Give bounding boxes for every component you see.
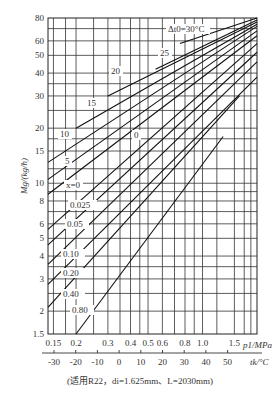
x-axis-label: p1/MPa (242, 340, 272, 350)
y-tick-label: 10 (35, 178, 45, 188)
curve-label: 0 (134, 130, 139, 140)
x-tick-label: 0.4 (125, 338, 137, 348)
curve-label: x=0 (66, 180, 81, 190)
curve-label: 20 (111, 66, 121, 76)
curve-label: 25 (160, 48, 170, 58)
y-axis-label: Mg/(kg/h) (19, 158, 29, 195)
curve-line (48, 62, 257, 264)
curve-label: 0.80 (72, 305, 88, 315)
curve-label: 0.10 (63, 249, 79, 259)
y-tick-label: 15 (35, 146, 45, 156)
temperature-axis-label: tk/°C (250, 357, 270, 367)
y-tick-label: 30 (35, 91, 45, 101)
curve-label: Δt0=30°C (168, 24, 204, 34)
curve-line (76, 24, 257, 128)
curve-label: 0.025 (70, 200, 91, 210)
x-tick-label: 0.15 (46, 338, 62, 348)
x-tick-label: 0.2 (70, 338, 81, 348)
plot-frame (48, 18, 257, 334)
curve-label: 0.05 (67, 219, 83, 229)
temperature-tick-label: -20 (70, 357, 82, 367)
temperature-tick-label: 0 (117, 357, 122, 367)
x-tick-label: 0.3 (102, 338, 114, 348)
y-tick-label: 3 (40, 274, 45, 284)
x-tick-label: 1.0 (197, 338, 209, 348)
curve-label: 15 (87, 98, 97, 108)
curve-label: 0.20 (63, 268, 79, 278)
y-tick-label: 20 (35, 123, 45, 133)
temperature-tick-label: 30 (180, 357, 190, 367)
footnote: (适用R22，di=1.625mm、L=2030mm) (67, 376, 213, 386)
temperature-tick-label: 40 (201, 357, 211, 367)
curve-line (48, 26, 257, 162)
y-tick-label: 4 (40, 251, 45, 261)
y-tick-label: 5 (40, 233, 45, 243)
chart-canvas: 1.523456810152030405060800.150.20.30.40.… (0, 0, 279, 395)
curve-line (48, 36, 257, 195)
y-tick-label: 50 (35, 50, 45, 60)
temperature-tick-label: -10 (91, 357, 103, 367)
y-tick-label: 8 (40, 196, 45, 206)
temperature-tick-label: 20 (158, 357, 168, 367)
y-tick-label: 40 (35, 68, 45, 78)
y-tick-label: 2 (40, 306, 45, 316)
x-tick-label: 0.8 (179, 338, 191, 348)
y-tick-label: 6 (40, 219, 45, 229)
temperature-tick-label: -30 (48, 357, 60, 367)
y-tick-label: 60 (35, 36, 45, 46)
curve-line (48, 52, 257, 245)
curve-label: 0.40 (63, 289, 79, 299)
temperature-tick-label: 10 (136, 357, 146, 367)
y-tick-label: 1.5 (33, 329, 45, 339)
x-tick-label: 0.6 (157, 338, 169, 348)
curve-label: 5 (65, 156, 70, 166)
y-tick-label: 80 (35, 13, 45, 23)
curve-label: 10 (60, 129, 70, 139)
curve-line (48, 31, 257, 179)
x-tick-label: 0.5 (142, 338, 154, 348)
x-tick-label: 1.5 (229, 338, 241, 348)
temperature-tick-label: 50 (223, 357, 233, 367)
